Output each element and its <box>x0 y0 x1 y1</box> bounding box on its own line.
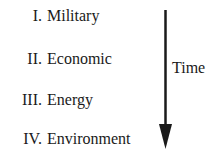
time-axis-label: Time <box>172 59 205 77</box>
down-arrow-icon <box>0 0 221 154</box>
